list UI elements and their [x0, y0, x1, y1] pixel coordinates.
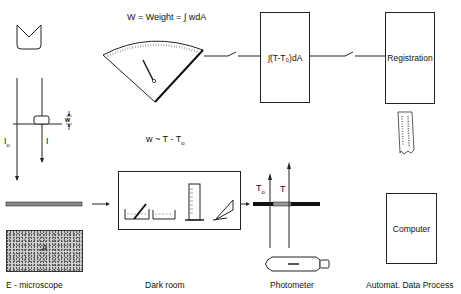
- printout-tape-icon: [398, 112, 414, 154]
- specimen-area-label: A: [7, 243, 82, 253]
- stage-caption-dark-room: Dark room: [145, 280, 185, 290]
- photometer-label-to: To: [256, 183, 265, 195]
- electron-micrograph: A: [6, 230, 83, 272]
- weight-formula: W = Weight = ∫ wdA: [127, 12, 206, 22]
- photometer-label-t: T: [280, 184, 286, 194]
- thickness-formula: w ~ T - To: [146, 134, 185, 146]
- integrator-box: ∫(T-T₀)dA: [260, 12, 310, 103]
- registration-box: Registration: [385, 12, 435, 104]
- sample-icon: [34, 116, 49, 124]
- computer-label: Computer: [387, 224, 436, 234]
- darkroom-equipment-icon: [119, 172, 240, 229]
- thickness-label: w: [65, 116, 70, 123]
- stage-caption-data-process: Automat. Data Process: [366, 280, 453, 290]
- computer-box: Computer: [386, 193, 437, 264]
- stage-caption-photometer: Photometer: [270, 280, 314, 290]
- weight-scale-icon: [103, 41, 203, 102]
- integrator-label: ∫(T-T₀)dA: [261, 53, 309, 63]
- specimen-holder-icon: [17, 25, 41, 49]
- registration-label: Registration: [386, 53, 434, 63]
- beam-label-i: I: [46, 136, 49, 146]
- darkroom-box: [118, 171, 241, 230]
- beam-label-io: Io: [4, 136, 10, 148]
- stage-caption-e-microscope: E - microscope: [6, 280, 63, 290]
